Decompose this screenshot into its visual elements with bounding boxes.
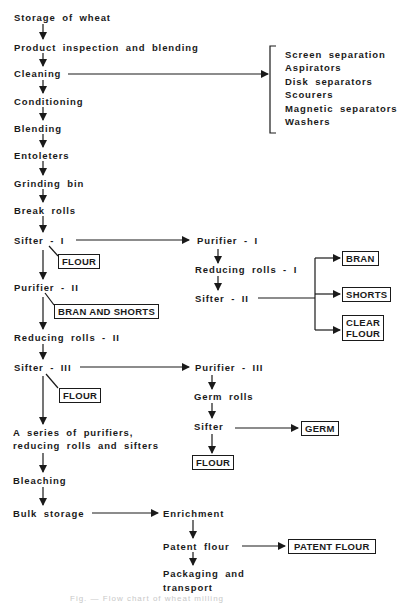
step-cleaning: Cleaning <box>14 68 61 79</box>
step-purifier-1: Purifier - I <box>197 235 258 246</box>
cleaning-method: Screen separation <box>285 49 386 60</box>
output-bran-and-shorts: BRAN AND SHORTS <box>54 304 159 319</box>
step-entoleters: Entoleters <box>14 150 69 161</box>
step-series-line-1: A series of purifiers, <box>13 427 133 438</box>
cleaning-method: Magnetic separators <box>285 103 398 114</box>
step-packaging-line-1: Packaging and <box>163 568 245 579</box>
step-storage-of-wheat: Storage of wheat <box>14 12 111 23</box>
step-reducing-rolls-2: Reducing rolls - II <box>14 332 120 343</box>
output-flour-branch3: FLOUR <box>192 455 234 470</box>
cleaning-method: Washers <box>285 116 331 127</box>
step-sifter-2: Sifter - II <box>195 293 249 304</box>
output-clear-flour: CLEAR FLOUR <box>342 315 384 341</box>
step-blending: Blending <box>14 123 62 134</box>
bran-shorts-leader <box>45 293 54 305</box>
output-bran: BRAN <box>342 251 379 266</box>
step-conditioning: Conditioning <box>14 96 83 107</box>
cleaning-method: Scourers <box>285 89 333 100</box>
cleaning-method: Disk separators <box>285 76 373 87</box>
output-patent-flour: PATENT FLOUR <box>288 539 376 554</box>
step-series-line-2: reducing rolls and sifters <box>13 440 159 451</box>
step-sifter-1: Sifter - I <box>14 235 64 246</box>
flour-leader-3 <box>46 374 58 388</box>
step-packaging-line-2: transport <box>163 582 213 593</box>
step-purifier-3: Purifier - III <box>195 362 263 373</box>
cleaning-bracket <box>270 46 276 133</box>
step-break-rolls: Break rolls <box>14 205 76 216</box>
step-germ-rolls: Germ rolls <box>194 391 254 402</box>
step-reducing-rolls-1: Reducing rolls - I <box>195 264 297 275</box>
step-sifter-3: Sifter - III <box>14 362 71 373</box>
step-sifter: Sifter <box>194 421 224 432</box>
step-bleaching: Bleaching <box>13 475 67 486</box>
clear-flour-line-2: FLOUR <box>346 328 380 339</box>
output-flour-sifter1: FLOUR <box>58 254 100 269</box>
step-grinding-bin: Grinding bin <box>14 178 84 189</box>
clear-flour-line-1: CLEAR <box>346 317 380 328</box>
figure-caption: Fig. — Flow chart of wheat milling <box>70 594 224 603</box>
step-bulk-storage: Bulk storage <box>13 508 84 519</box>
output-flour-sifter3: FLOUR <box>59 388 101 403</box>
step-purifier-2: Purifier - II <box>14 282 79 293</box>
step-enrichment: Enrichment <box>163 508 224 519</box>
output-germ: GERM <box>301 421 339 436</box>
flour-leader-1 <box>49 246 58 256</box>
cleaning-method: Aspirators <box>285 62 342 73</box>
step-patent-flour: Patent flour <box>163 541 230 552</box>
step-product-inspection: Product inspection and blending <box>14 42 199 53</box>
output-shorts: SHORTS <box>342 287 391 302</box>
